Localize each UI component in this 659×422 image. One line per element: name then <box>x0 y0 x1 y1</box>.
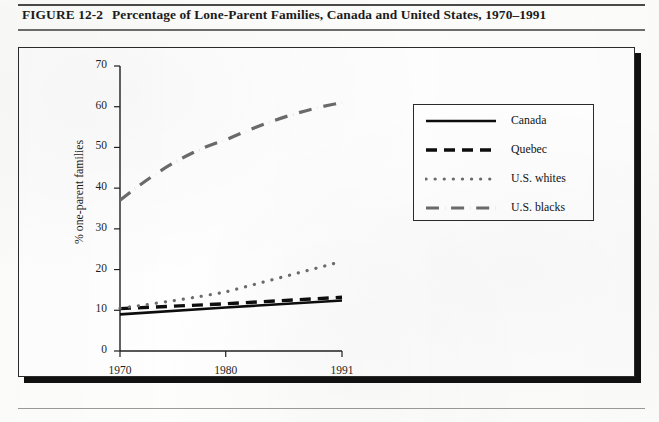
legend-swatch-dotted-icon <box>425 172 497 186</box>
legend-item-label: U.S. blacks <box>511 200 565 215</box>
title-rule-bottom <box>18 29 645 31</box>
y-axis-tick-label: 0 <box>85 343 107 355</box>
x-axis-tick-label: 1970 <box>97 364 143 376</box>
chart-legend: CanadaQuebecU.S. whitesU.S. blacks <box>413 104 594 221</box>
y-axis-title: % one-parent families <box>72 140 87 244</box>
legend-swatch-solid-icon <box>425 114 497 128</box>
page-rule-bottom <box>18 408 645 409</box>
legend-item-label: Quebec <box>511 142 547 157</box>
y-axis-tick-label: 10 <box>85 302 107 314</box>
figure-page: FIGURE 12-2Percentage of Lone-Parent Fam… <box>0 0 659 422</box>
legend-item: U.S. whites <box>414 164 593 193</box>
title-rule-top <box>18 4 645 6</box>
legend-item-label: U.S. whites <box>511 171 566 186</box>
x-axis-tick-label: 1980 <box>203 364 249 376</box>
figure-frame: 010203040506070 197019801991 % one-paren… <box>18 47 635 377</box>
legend-swatch-dashed-icon <box>425 143 497 157</box>
x-axis-ticks <box>120 351 342 357</box>
y-axis-tick-label: 40 <box>85 180 107 192</box>
y-axis-tick-label: 30 <box>85 221 107 233</box>
legend-item-label: Canada <box>511 113 546 128</box>
chart-series-layer <box>120 103 342 315</box>
legend-item: Quebec <box>414 135 593 164</box>
series-line-u-s-blacks <box>120 103 342 201</box>
figure-title: FIGURE 12-2Percentage of Lone-Parent Fam… <box>22 7 546 23</box>
x-axis-tick-label: 1991 <box>319 364 365 376</box>
figure-number: FIGURE 12-2 <box>22 7 103 22</box>
y-axis-tick-label: 70 <box>85 58 107 70</box>
y-axis-tick-label: 50 <box>85 139 107 151</box>
legend-item: Canada <box>414 106 593 135</box>
figure-title-text: Percentage of Lone-Parent Families, Cana… <box>112 7 546 22</box>
y-axis-tick-label: 20 <box>85 262 107 274</box>
y-axis-tick-label: 60 <box>85 99 107 111</box>
legend-item: U.S. blacks <box>414 193 593 222</box>
legend-swatch-dash-dot-icon <box>425 201 497 215</box>
